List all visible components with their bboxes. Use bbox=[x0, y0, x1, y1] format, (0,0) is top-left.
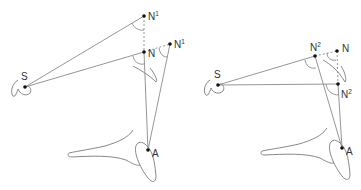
line-s-n2-lower bbox=[218, 84, 338, 85]
angle-arc bbox=[326, 84, 339, 95]
label-n2-lower: N2 bbox=[341, 88, 352, 100]
angle-arc bbox=[132, 23, 144, 30]
angle-arc bbox=[305, 60, 316, 68]
label-n1-right: N1 bbox=[174, 38, 185, 50]
label-n: N bbox=[342, 43, 349, 54]
label-s: S bbox=[214, 69, 221, 80]
point-n1-right bbox=[168, 42, 172, 46]
sella-outline bbox=[204, 80, 223, 95]
line-n1-right-a bbox=[148, 44, 170, 150]
line-n2-n-dashed bbox=[315, 51, 337, 56]
line-s-n bbox=[25, 52, 144, 87]
point-n2-lower bbox=[336, 82, 340, 86]
line-s-n1-top bbox=[25, 16, 144, 87]
angle-arc bbox=[159, 48, 167, 57]
label-a: A bbox=[346, 146, 353, 157]
point-n bbox=[142, 50, 146, 54]
point-a bbox=[146, 148, 150, 152]
label-n1-top: N1 bbox=[148, 10, 159, 22]
left-diagram: S N1 N N1 A bbox=[12, 10, 186, 182]
maxilla-outline bbox=[261, 128, 334, 163]
label-a: A bbox=[152, 148, 159, 159]
angle-arc bbox=[327, 53, 336, 60]
line-s-n2-top bbox=[218, 56, 315, 85]
point-n2-top bbox=[313, 54, 317, 58]
cephalometric-diagram: S N1 N N1 A S N2 N N2 A bbox=[0, 0, 361, 190]
point-a bbox=[340, 146, 344, 150]
label-n2-top: N2 bbox=[310, 41, 321, 53]
label-s: S bbox=[21, 71, 28, 82]
point-s bbox=[216, 83, 220, 87]
nasal-outline bbox=[323, 60, 346, 82]
point-n1-top bbox=[142, 14, 146, 18]
point-s bbox=[23, 85, 27, 89]
line-n-a bbox=[144, 52, 148, 150]
line-n-n2-lower-dashed bbox=[337, 51, 338, 84]
maxilla-outline bbox=[68, 130, 140, 165]
label-n: N bbox=[148, 48, 155, 59]
angle-arc bbox=[133, 56, 144, 64]
line-n2-top-a bbox=[315, 56, 342, 148]
sella-outline bbox=[12, 80, 31, 96]
point-n bbox=[335, 49, 339, 53]
right-diagram: S N2 N N2 A bbox=[204, 41, 353, 180]
